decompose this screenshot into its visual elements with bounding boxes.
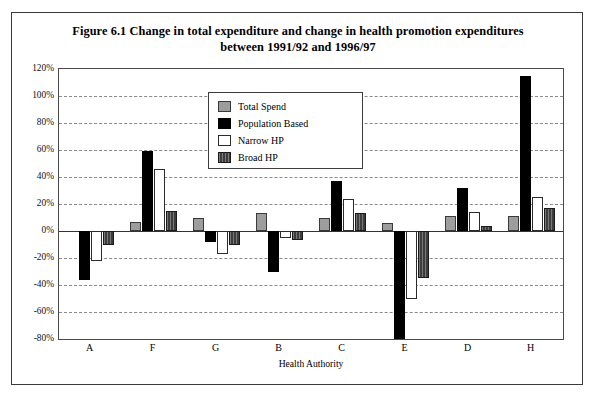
x-axis-tick-label: B <box>259 342 299 353</box>
y-axis-tick-label: -60% <box>12 306 54 316</box>
bar-population-based <box>142 151 153 231</box>
bar-narrow-hp <box>406 231 417 299</box>
bar-population-based <box>394 231 405 339</box>
y-axis-tick-label: 60% <box>12 144 54 154</box>
legend-label: Total Spend <box>238 101 286 112</box>
legend-item: Population Based <box>218 115 362 132</box>
bar-broad-hp <box>544 208 555 231</box>
y-axis-tick-label: -40% <box>12 279 54 289</box>
bar-broad-hp <box>418 231 429 278</box>
chart-legend: Total SpendPopulation BasedNarrow HPBroa… <box>208 92 363 169</box>
y-axis-tick-label: 20% <box>12 198 54 208</box>
bar-broad-hp <box>166 211 177 231</box>
bar-broad-hp <box>355 213 366 231</box>
bar-population-based <box>205 231 216 242</box>
bar-narrow-hp <box>154 169 165 231</box>
bar-narrow-hp <box>280 231 291 238</box>
bar-total-spend <box>256 213 267 231</box>
x-axis-tick-label: F <box>133 342 173 353</box>
bar-total-spend <box>508 216 519 231</box>
bar-group <box>374 69 437 339</box>
bar-total-spend <box>130 222 141 231</box>
bar-group <box>59 69 122 339</box>
x-axis-tick-label: G <box>196 342 236 353</box>
x-axis-tick-label: D <box>448 342 488 353</box>
x-axis-tick-label: E <box>385 342 425 353</box>
bar-broad-hp <box>481 226 492 231</box>
y-axis-tick-label: 120% <box>12 63 54 73</box>
bar-population-based <box>79 231 90 280</box>
x-axis-tick-label: A <box>70 342 110 353</box>
x-axis-tick-label: H <box>511 342 551 353</box>
figure-title-line-1: Figure 6.1 Change in total expenditure a… <box>30 24 566 40</box>
x-axis-title: Health Authority <box>58 358 564 369</box>
x-axis-tick-label: C <box>322 342 362 353</box>
bar-broad-hp <box>229 231 240 245</box>
bar-total-spend <box>382 223 393 231</box>
legend-label: Broad HP <box>238 152 278 163</box>
bar-narrow-hp <box>469 212 480 231</box>
bar-group <box>500 69 563 339</box>
bar-group <box>437 69 500 339</box>
y-axis-tick-label: 80% <box>12 117 54 127</box>
y-axis-tick-label: 40% <box>12 171 54 181</box>
bar-narrow-hp <box>217 231 228 254</box>
bar-population-based <box>520 76 531 231</box>
y-axis-tick-label: 0% <box>12 225 54 235</box>
legend-swatch-icon <box>218 152 231 163</box>
legend-item: Broad HP <box>218 149 362 166</box>
bar-narrow-hp <box>91 231 102 261</box>
bar-total-spend <box>445 216 456 231</box>
bar-broad-hp <box>292 231 303 240</box>
gridline <box>59 339 563 340</box>
legend-label: Population Based <box>238 118 308 129</box>
bar-population-based <box>268 231 279 272</box>
legend-swatch-icon <box>218 118 231 129</box>
bar-group <box>122 69 185 339</box>
y-axis-tick-label: -80% <box>12 333 54 343</box>
bar-narrow-hp <box>532 197 543 231</box>
bar-broad-hp <box>103 231 114 245</box>
bar-total-spend <box>319 218 330 232</box>
legend-label: Narrow HP <box>238 135 284 146</box>
legend-item: Total Spend <box>218 98 362 115</box>
y-axis-tick-labels: 120%100%80%60%40%20%0%-20%-40%-60%-80% <box>8 68 54 340</box>
legend-item: Narrow HP <box>218 132 362 149</box>
bar-total-spend <box>193 218 204 232</box>
bar-narrow-hp <box>343 199 354 231</box>
figure-root: Figure 6.1 Change in total expenditure a… <box>0 0 596 399</box>
legend-swatch-icon <box>218 101 231 112</box>
x-axis-tick-labels: AFGBCEDH <box>58 342 564 358</box>
figure-title-line-2: between 1991/92 and 1996/97 <box>30 40 566 56</box>
bar-population-based <box>457 188 468 231</box>
y-axis-tick-label: 100% <box>12 90 54 100</box>
y-axis-tick-label: -20% <box>12 252 54 262</box>
bar-population-based <box>331 181 342 231</box>
legend-swatch-icon <box>218 135 231 146</box>
figure-title: Figure 6.1 Change in total expenditure a… <box>30 24 566 55</box>
